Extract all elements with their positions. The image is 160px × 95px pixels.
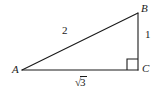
- vertex-label-c: C: [142, 63, 149, 74]
- radicand: 3: [80, 76, 87, 88]
- vertex-label-a: A: [12, 64, 19, 75]
- triangle-figure: A B C 2 1 √3: [0, 0, 160, 95]
- side-length-label-hypotenuse: 2: [62, 25, 68, 36]
- hypotenuse-line: [22, 13, 138, 70]
- side-length-label-vertical-leg: 1: [145, 29, 151, 40]
- radical-expression: √3: [75, 76, 87, 88]
- right-angle-marker-icon: [127, 59, 138, 70]
- vertex-label-b: B: [141, 3, 148, 14]
- side-length-label-base-leg: √3: [75, 76, 87, 88]
